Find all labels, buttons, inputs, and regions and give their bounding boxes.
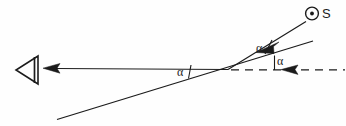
reference-line [231,65,345,74]
observer-ray [43,64,228,74]
incident-ray [228,22,306,70]
source-label: S [322,7,331,20]
angle-label-reflected: α [277,55,283,67]
angle-label-incident: α [256,42,262,54]
diagram-canvas [0,0,346,126]
ray-diagram: α α α S [0,0,346,126]
angle-tick-surface [189,65,192,79]
surface-line [57,41,313,120]
eye-icon [16,56,38,84]
angle-label-surface: α [177,66,183,78]
sun-icon [306,7,319,20]
